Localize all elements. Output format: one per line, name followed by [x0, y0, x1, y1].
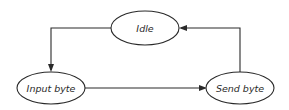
arrow-left-icon: [179, 25, 187, 31]
state-diagram: Idle Input byte Send byte: [0, 0, 289, 110]
edge-line: [181, 28, 240, 72]
transition-send-byte-to-idle: [179, 25, 240, 72]
state-send-byte: Send byte: [206, 72, 274, 104]
state-input-byte: Input byte: [17, 72, 85, 104]
state-label: Idle: [136, 23, 153, 34]
state-label: Send byte: [216, 83, 264, 94]
state-idle: Idle: [111, 11, 179, 45]
transition-input-byte-to-send-byte: [85, 85, 207, 91]
state-label: Input byte: [27, 83, 76, 94]
edge-line: [51, 28, 111, 70]
arrow-down-icon: [48, 64, 54, 72]
transition-idle-to-input-byte: [48, 28, 111, 72]
